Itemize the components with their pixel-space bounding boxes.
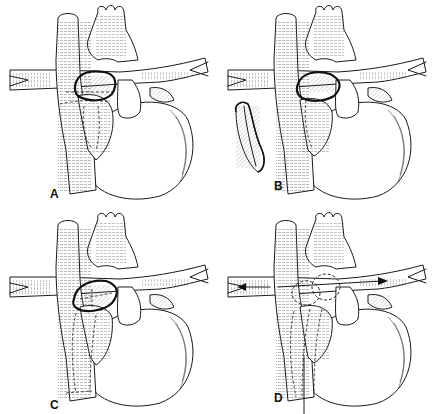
panel-label-b: B [274,180,283,192]
heart-drawing-a [0,0,218,207]
heart-drawing-c [0,207,218,414]
panel-b: B [218,0,436,207]
excised-patch [236,102,264,172]
panel-a: A [0,0,218,207]
panel-d: D [218,207,436,414]
panel-label-c: C [50,399,59,411]
panel-label-a: A [50,188,59,200]
panel-label-d: D [274,392,283,404]
heart-drawing-d [218,207,436,414]
panel-c: C [0,207,218,414]
surgical-illustration-figure: A B [0,0,436,414]
heart-drawing-b [218,0,436,207]
